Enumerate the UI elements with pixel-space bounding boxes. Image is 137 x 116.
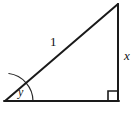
- angle-label: y: [18, 86, 23, 98]
- right-triangle-figure: 1 x y: [0, 0, 137, 116]
- right-angle-marker: [108, 91, 118, 101]
- hypotenuse-label: 1: [50, 35, 57, 48]
- vertical-leg-label: x: [124, 49, 130, 62]
